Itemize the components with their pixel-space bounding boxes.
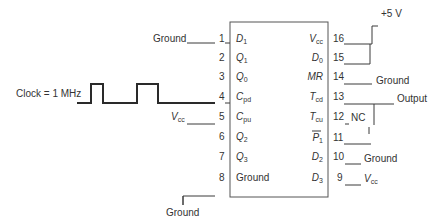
pin-number-11: 11 <box>333 132 344 143</box>
label-output: Output <box>397 93 427 104</box>
wire-plus5v <box>372 26 378 44</box>
ic-chip-body <box>230 22 328 197</box>
pin-number-1: 1 <box>219 33 225 44</box>
wire-pin8-ground <box>183 196 215 205</box>
right-pin-numbers: 16 15 14 13 12 11 10 9 <box>333 33 345 183</box>
label-ground-pin1: Ground <box>153 33 186 44</box>
pin-number-6: 6 <box>219 131 225 142</box>
label-ground-pin14: Ground <box>376 75 409 86</box>
label-vcc-pin9: Vcc <box>364 173 378 185</box>
pin-number-4: 4 <box>219 91 225 102</box>
label-ground-pin8: Ground <box>166 207 199 218</box>
pin-number-10: 10 <box>333 151 345 162</box>
pin-number-9: 9 <box>337 172 343 183</box>
pin-name-14: MR <box>307 71 323 82</box>
label-plus5v: +5 V <box>381 8 402 19</box>
label-vcc-pin5: Vcc <box>171 111 185 123</box>
pin-number-2: 2 <box>219 52 225 63</box>
pin-number-7: 7 <box>219 151 225 162</box>
label-clock: Clock = 1 MHz <box>16 88 81 99</box>
pin-name-8: Ground <box>236 172 269 183</box>
pin-number-3: 3 <box>219 71 225 82</box>
clock-waveform <box>77 84 215 103</box>
left-pin-numbers: 1 2 3 4 5 6 7 8 <box>219 33 225 183</box>
circuit-diagram: 1 2 3 4 5 6 7 8 D1 Q1 Q0 Cpd Cpu Q2 Q3 G… <box>0 0 442 224</box>
pin-number-8: 8 <box>219 172 225 183</box>
wire-pin15 <box>344 44 370 64</box>
label-ground-pin10: Ground <box>364 153 397 164</box>
pin-number-14: 14 <box>333 71 345 82</box>
label-nc: NC <box>351 112 365 123</box>
pin-number-15: 15 <box>333 52 345 63</box>
pin-number-16: 16 <box>333 33 345 44</box>
pin-number-5: 5 <box>219 111 225 122</box>
pin-number-13: 13 <box>333 91 345 102</box>
pin-number-12: 12 <box>333 111 345 122</box>
